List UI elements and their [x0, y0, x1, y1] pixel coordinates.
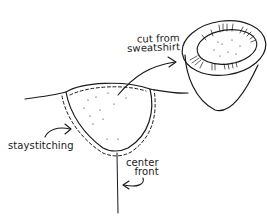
label-center-line2: front	[126, 167, 159, 176]
staystitching-outer	[62, 90, 155, 156]
neckline-right	[150, 89, 188, 93]
center-front-line	[117, 153, 118, 213]
diagram-drawing	[0, 0, 267, 222]
staystitching-inner	[70, 87, 146, 95]
label-cut-from-sweatshirt: cut from sweatshirt	[127, 33, 181, 53]
ribbing-marks	[190, 24, 256, 70]
neckline-left	[25, 92, 66, 99]
cutout-outline	[66, 83, 152, 151]
piece-body	[185, 55, 258, 111]
piece-rim-inner	[195, 26, 259, 68]
stipple-dots	[83, 39, 240, 139]
label-cut-line2: sweatshirt	[127, 42, 180, 53]
label-center-front: center front	[126, 158, 159, 176]
label-staystitching: staystitching	[8, 141, 74, 150]
sewing-diagram: cut from sweatshirt staystitching center…	[0, 0, 267, 222]
arrow-cut	[118, 62, 175, 95]
